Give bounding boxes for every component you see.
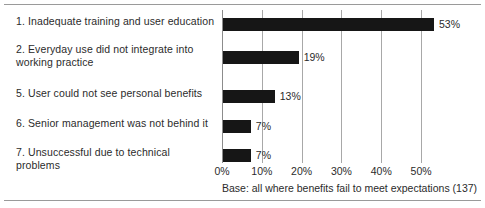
- bar-value-label: 19%: [304, 51, 325, 64]
- y-axis-line: [222, 10, 223, 163]
- bar-chart-figure: 1. Inadequate training and user educatio…: [0, 0, 485, 208]
- x-tick-label: 10%: [251, 165, 272, 177]
- bar-value-label: 7%: [256, 149, 271, 162]
- gridline-50: [421, 10, 422, 163]
- gridline-20: [302, 10, 303, 163]
- category-label: 5. User could not see personal benefits: [16, 87, 216, 100]
- bar: [223, 149, 251, 162]
- gridline-40: [381, 10, 382, 163]
- bar: [223, 51, 299, 64]
- category-label: 2. Everyday use did not integrate into w…: [16, 43, 216, 68]
- bottom-divider-rule: [4, 200, 481, 201]
- x-tick-label: 30%: [331, 165, 352, 177]
- bar-value-label: 7%: [256, 120, 271, 133]
- gridline-30: [341, 10, 342, 163]
- x-tick-label: 40%: [371, 165, 392, 177]
- category-label: 6. Senior management was not behind it: [16, 117, 216, 130]
- category-label: 1. Inadequate training and user educatio…: [16, 15, 216, 28]
- x-axis-tick-labels: 0%10%20%30%40%50%: [222, 163, 441, 183]
- x-tick-label: 20%: [291, 165, 312, 177]
- bar-value-label: 13%: [280, 90, 301, 103]
- category-label-column: 1. Inadequate training and user educatio…: [0, 10, 216, 163]
- bar: [223, 90, 275, 103]
- bar: [223, 120, 251, 133]
- gridline-10: [262, 10, 263, 163]
- bar: [223, 18, 434, 31]
- category-label: 7. Unsuccessful due to technical problem…: [16, 146, 216, 171]
- x-tick-label: 0%: [214, 165, 229, 177]
- x-tick-label: 50%: [411, 165, 432, 177]
- plot-area: 53%19%13%7%7%: [222, 10, 441, 163]
- base-note: Base: all where benefits fail to meet ex…: [222, 182, 477, 194]
- top-divider-rule: [4, 4, 481, 5]
- bar-value-label: 53%: [439, 18, 460, 31]
